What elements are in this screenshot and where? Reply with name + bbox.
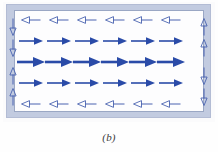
figure-caption: (b): [0, 131, 218, 143]
figure-root: (b): [0, 0, 218, 152]
field-region: [14, 10, 204, 112]
